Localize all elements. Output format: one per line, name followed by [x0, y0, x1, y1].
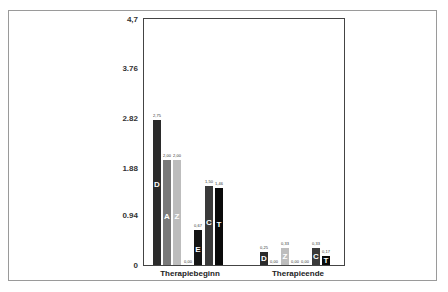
bar-value: 2,75: [147, 113, 167, 118]
plot-area: 2,75 D 2,00 A 2,00 Z 0,00 0,67 E 1,50 C …: [143, 18, 345, 266]
bar-letter: Z: [173, 212, 181, 221]
bar-g1-e: 0,67 E: [194, 230, 202, 265]
y-tick-0: 0: [134, 261, 138, 270]
bar-value: 0,17: [316, 249, 336, 254]
bar-g1-z: 2,00 Z: [173, 160, 181, 265]
bar-letter: C: [205, 218, 213, 227]
bar-letter: A: [163, 212, 171, 221]
bar-letter: E: [194, 245, 202, 254]
y-tick-282: 2.82: [122, 114, 138, 123]
y-tick-376: 3.76: [122, 64, 138, 73]
bar-g2-t: 0,17 T: [322, 256, 330, 265]
bar-g1-d: 2,75 D: [153, 120, 161, 265]
bar-value: 1,46: [209, 181, 229, 186]
bar-value: 0,33: [275, 241, 295, 246]
bar-value: 0,33: [306, 241, 326, 246]
bar-g1-t: 1,46 T: [215, 188, 223, 265]
bar-g1-c: 1,50 C: [205, 186, 213, 265]
y-tick-094: 0.94: [122, 211, 138, 220]
x-label-therapiebeginn: Therapiebeginn: [140, 269, 240, 278]
bar-value: 2,00: [167, 153, 187, 158]
bar-letter: T: [215, 220, 223, 229]
y-tick-188: 1.88: [122, 164, 138, 173]
x-label-therapieende: Therapieende: [248, 269, 348, 278]
y-tick-47: 4,7: [127, 15, 138, 24]
bar-value: 0,25: [254, 245, 274, 250]
bar-letter: D: [153, 180, 161, 189]
bar-letter: T: [322, 256, 330, 265]
bar-g1-a: 2,00 A: [163, 160, 171, 265]
